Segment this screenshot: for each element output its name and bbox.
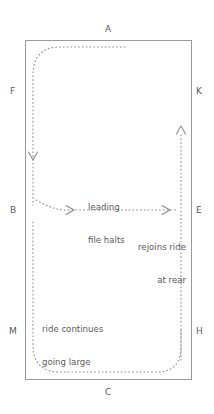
dressage-arena-diagram: A F B M K E H C leading file halts rejoi… <box>0 0 214 414</box>
annotation-line: ride continues <box>42 324 103 335</box>
annotation-ride-continues-going-large: ride continues going large <box>42 302 103 390</box>
marker-letter-e: E <box>196 206 202 215</box>
annotation-line: at rear <box>112 275 186 286</box>
annotation-line: leading <box>88 202 125 213</box>
annotation-rejoins-ride-at-rear: rejoins ride at rear <box>112 220 186 308</box>
marker-letter-f: F <box>10 87 15 96</box>
annotation-line: going large <box>42 357 103 368</box>
marker-letter-a: A <box>105 25 111 34</box>
marker-letter-b: B <box>10 206 16 215</box>
annotation-line: rejoins ride <box>112 242 186 253</box>
marker-letter-m: M <box>9 327 17 336</box>
marker-letter-k: K <box>196 87 202 96</box>
marker-letter-c: C <box>105 388 111 397</box>
marker-letter-h: H <box>196 327 203 336</box>
